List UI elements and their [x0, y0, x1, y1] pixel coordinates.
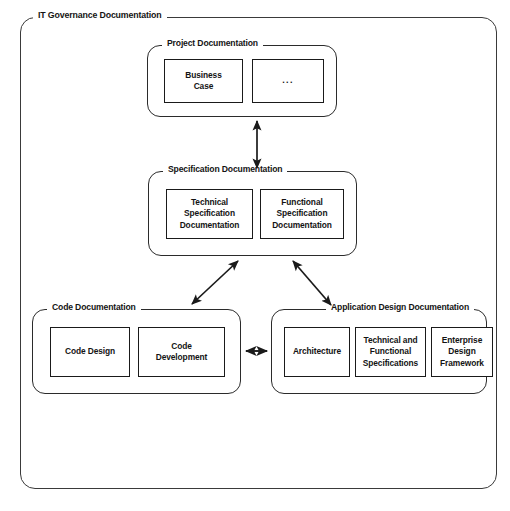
- node-business-case[interactable]: Business Case: [164, 59, 243, 103]
- node-code-development-line2: Development: [156, 352, 208, 364]
- node-enterprise-design-line2: Design: [440, 346, 484, 358]
- group-title-code-documentation: Code Documentation: [47, 302, 141, 312]
- node-ellipsis[interactable]: ...: [252, 59, 324, 103]
- node-architecture-line1: Architecture: [293, 346, 341, 358]
- node-functional-specification-line3: Documentation: [272, 220, 332, 232]
- group-specification-documentation: Specification Documentation Technical Sp…: [148, 171, 357, 256]
- group-title-application-design-documentation: Application Design Documentation: [326, 302, 474, 312]
- node-ellipsis-label: ...: [282, 75, 294, 87]
- group-title-project-documentation: Project Documentation: [162, 38, 263, 48]
- group-project-documentation: Project Documentation Business Case ...: [147, 45, 337, 117]
- node-technical-specification-line2: Specification: [180, 208, 240, 220]
- node-technical-and-functional-line1: Technical and: [363, 335, 418, 347]
- node-technical-specification-line3: Documentation: [180, 220, 240, 232]
- node-functional-specification-line1: Functional: [272, 197, 332, 209]
- node-technical-and-functional-specifications[interactable]: Technical and Functional Specifications: [355, 327, 426, 377]
- node-enterprise-design-line3: Framework: [440, 358, 484, 370]
- node-code-development[interactable]: Code Development: [138, 327, 225, 377]
- node-architecture[interactable]: Architecture: [284, 327, 350, 377]
- group-title-specification-documentation: Specification Documentation: [163, 164, 287, 174]
- node-code-development-line1: Code: [156, 341, 208, 353]
- node-code-design-line1: Code Design: [65, 346, 115, 358]
- node-business-case-line2: Case: [185, 81, 221, 93]
- group-application-design-documentation: Application Design Documentation Archite…: [271, 309, 487, 394]
- diagram-canvas: IT Governance Documentation Project Docu…: [0, 0, 510, 511]
- node-enterprise-design-line1: Enterprise: [440, 335, 484, 347]
- node-code-design[interactable]: Code Design: [50, 327, 130, 377]
- group-title-it-governance-documentation: IT Governance Documentation: [33, 10, 167, 20]
- node-functional-specification-documentation[interactable]: Functional Specification Documentation: [260, 189, 344, 239]
- node-enterprise-design-framework[interactable]: Enterprise Design Framework: [431, 327, 493, 377]
- node-technical-and-functional-line2: Functional: [363, 346, 418, 358]
- node-functional-specification-line2: Specification: [272, 208, 332, 220]
- node-technical-and-functional-line3: Specifications: [363, 358, 418, 370]
- group-code-documentation: Code Documentation Code Design Code Deve…: [32, 309, 241, 394]
- node-technical-specification-line1: Technical: [180, 197, 240, 209]
- node-business-case-line1: Business: [185, 70, 221, 82]
- node-technical-specification-documentation[interactable]: Technical Specification Documentation: [166, 189, 253, 239]
